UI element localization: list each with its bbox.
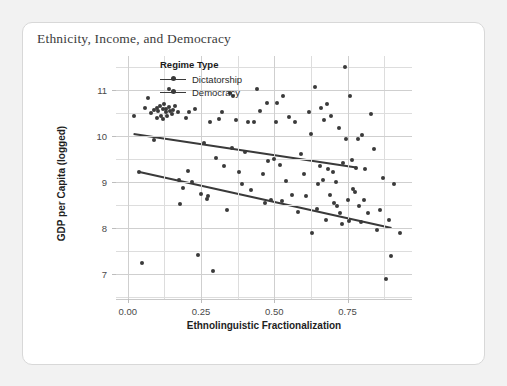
scatter-point — [272, 157, 276, 161]
scatter-point — [318, 164, 322, 168]
scatter-point — [310, 231, 314, 235]
scatter-point — [359, 220, 363, 224]
scatter-point — [299, 152, 303, 156]
scatter-point — [152, 138, 156, 142]
scatter-point — [362, 198, 366, 202]
scatter-point — [165, 114, 169, 118]
y-tick-label: 8 — [23, 222, 107, 233]
scatter-point — [325, 102, 329, 106]
x-tick-mark — [274, 299, 275, 303]
scatter-point — [206, 194, 210, 198]
gridline-horizontal — [116, 205, 412, 206]
scatter-point — [184, 116, 188, 120]
scatter-point — [375, 228, 379, 232]
scatter-point — [186, 169, 190, 173]
scatter-point — [307, 110, 311, 114]
scatter-point — [149, 111, 153, 115]
x-tick-label: 0.00 — [118, 306, 137, 317]
scatter-point — [384, 277, 388, 281]
x-tick-mark — [201, 299, 202, 303]
scatter-point — [343, 65, 347, 69]
gridline-horizontal — [116, 136, 412, 137]
scatter-point — [287, 115, 291, 119]
legend-marker-icon — [160, 74, 186, 85]
legend-title: Regime Type — [160, 59, 242, 70]
x-tick-mark — [348, 299, 349, 303]
y-tick-label: 9 — [23, 177, 107, 188]
scatter-point — [278, 163, 282, 167]
scatter-point — [315, 207, 319, 211]
scatter-point — [316, 182, 320, 186]
x-axis-line — [116, 299, 412, 300]
scatter-point — [398, 231, 402, 235]
scatter-point — [322, 118, 326, 122]
scatter-point — [214, 156, 218, 160]
scatter-point — [324, 218, 328, 222]
scatter-point — [309, 132, 313, 136]
y-tick-label: 11 — [23, 85, 107, 96]
scatter-point — [326, 167, 330, 171]
scatter-point — [369, 112, 373, 116]
scatter-point — [269, 198, 273, 202]
scatter-point — [143, 106, 147, 110]
gridline-horizontal — [116, 297, 412, 298]
scatter-point — [328, 193, 332, 197]
scatter-point — [353, 190, 357, 194]
scatter-point — [146, 96, 150, 100]
gridline-vertical — [311, 56, 312, 299]
legend-item-democracy[interactable]: Democracy — [160, 86, 242, 98]
scatter-point — [220, 110, 224, 114]
scatter-point — [340, 222, 344, 226]
scatter-point — [319, 106, 323, 110]
legend-item-dictatorship[interactable]: Dictatorship — [160, 73, 242, 85]
scatter-point — [392, 182, 396, 186]
scatter-point — [357, 204, 361, 208]
scatter-point — [249, 188, 253, 192]
scatter-point — [240, 182, 244, 186]
legend-item-label: Dictatorship — [192, 74, 242, 85]
scatter-point — [196, 253, 200, 257]
y-tick-mark — [112, 274, 116, 275]
scatter-point — [208, 120, 212, 124]
scatter-point — [155, 116, 159, 120]
scatter-point — [360, 133, 364, 137]
scatter-point — [161, 117, 165, 121]
gridline-horizontal — [116, 228, 412, 229]
gridline-horizontal — [116, 274, 412, 275]
x-tick-mark — [128, 299, 129, 303]
scatter-point — [387, 218, 391, 222]
scatter-point — [181, 186, 185, 190]
scatter-point — [171, 108, 175, 112]
scatter-point — [344, 137, 348, 141]
scatter-point — [222, 164, 226, 168]
scatter-point — [170, 112, 174, 116]
scatter-point — [230, 146, 234, 150]
gridline-vertical — [348, 56, 349, 299]
scatter-point — [274, 120, 278, 124]
scatter-point — [187, 110, 191, 114]
legend: Regime Type Dictatorship Democracy — [160, 59, 242, 98]
scatter-point — [234, 118, 238, 122]
scatter-point — [190, 180, 194, 184]
x-tick-label: 0.50 — [265, 306, 284, 317]
scatter-point — [177, 178, 181, 182]
scatter-point — [338, 211, 342, 215]
scatter-point — [329, 114, 333, 118]
scatter-point — [243, 150, 247, 154]
scatter-point — [284, 179, 288, 183]
scatter-point — [363, 167, 367, 171]
gridline-vertical — [128, 56, 129, 299]
scatter-point — [193, 107, 197, 111]
x-axis-label: Ethnolinguistic Fractionalization — [116, 320, 412, 331]
scatter-point — [178, 202, 182, 206]
scatter-point — [266, 159, 270, 163]
scatter-point — [258, 109, 262, 113]
scatter-point — [354, 166, 358, 170]
scatter-point — [261, 172, 265, 176]
scatter-point — [156, 109, 160, 113]
y-tick-mark — [112, 182, 116, 183]
y-tick-mark — [112, 90, 116, 91]
scatter-point — [225, 208, 229, 212]
scatter-point — [389, 254, 393, 258]
gridline-horizontal — [116, 251, 412, 252]
